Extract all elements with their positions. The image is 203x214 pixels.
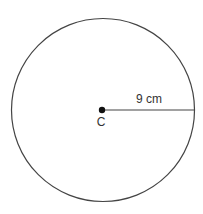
center-label: C xyxy=(97,115,106,129)
radius-label: 9 cm xyxy=(136,92,162,106)
circle-diagram: 9 cm C xyxy=(0,0,203,214)
center-point xyxy=(99,107,105,113)
